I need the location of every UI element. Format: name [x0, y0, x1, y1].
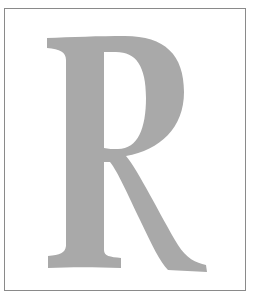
- letter-r-glyph: [0, 0, 261, 307]
